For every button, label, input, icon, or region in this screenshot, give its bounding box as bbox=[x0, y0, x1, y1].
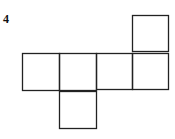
cube-net-diagram bbox=[0, 0, 175, 139]
net-square-row-1 bbox=[23, 54, 60, 91]
net-square-bottom bbox=[60, 92, 97, 129]
net-square-row-3 bbox=[97, 54, 133, 90]
net-square-row-2 bbox=[60, 54, 97, 91]
net-square-top bbox=[133, 16, 169, 52]
figure-canvas: 4 bbox=[0, 0, 175, 139]
net-square-row-4 bbox=[133, 54, 169, 90]
